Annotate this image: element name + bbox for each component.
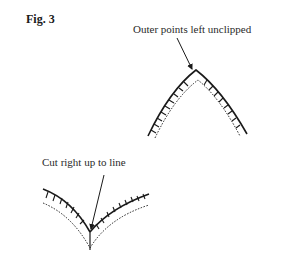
diagram-canvas [0, 0, 287, 261]
concave-curve [43, 189, 149, 250]
outer-points-arrow [177, 38, 192, 69]
convex-curve [148, 70, 247, 138]
